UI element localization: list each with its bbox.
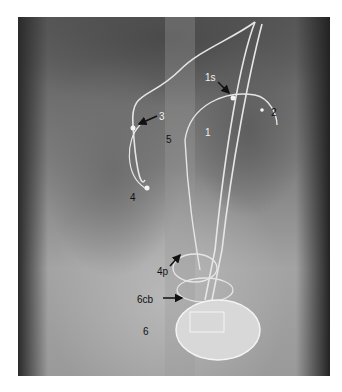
annotation-label-6: 6 (143, 327, 149, 337)
annotation-label-4p: 4p (157, 267, 168, 277)
annotation-label-5: 5 (166, 135, 172, 145)
annotation-label-1s: 1s (205, 73, 216, 83)
chest-xray-image (18, 17, 330, 376)
leads-and-device-drawing (18, 17, 330, 376)
annotation-label-6cb: 6cb (137, 295, 153, 305)
annotation-label-2: 2 (271, 108, 277, 118)
annotation-label-4: 4 (130, 193, 136, 203)
annotation-label-1: 1 (205, 128, 211, 138)
annotation-label-3: 3 (159, 112, 165, 122)
